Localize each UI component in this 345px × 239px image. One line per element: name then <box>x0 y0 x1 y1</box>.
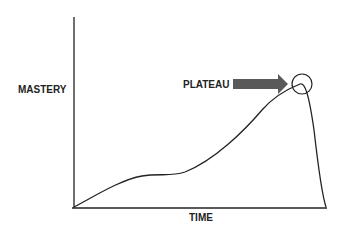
plateau-arrow <box>233 74 288 94</box>
x-axis-label: TIME <box>189 212 213 223</box>
y-axis-label: MASTERY <box>18 84 67 95</box>
plateau-annotation: PLATEAU <box>183 79 229 90</box>
mastery-curve <box>74 84 326 207</box>
mastery-diagram <box>0 0 345 239</box>
